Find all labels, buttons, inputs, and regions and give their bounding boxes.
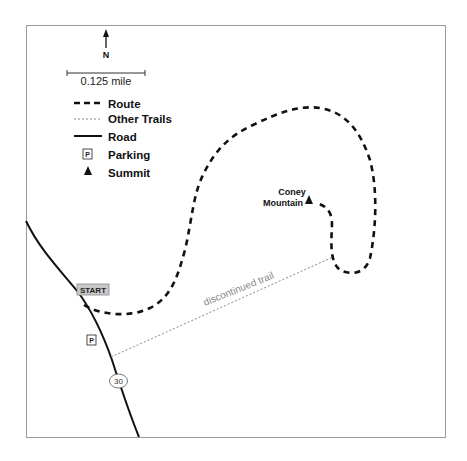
legend-route-label: Route xyxy=(108,98,141,110)
map-frame xyxy=(27,26,446,438)
legend-summit-label: Summit xyxy=(108,167,150,179)
trail-map: N 0.125 mile Route Other Trails Road P P… xyxy=(0,0,467,461)
legend-other-trails-label: Other Trails xyxy=(108,113,172,125)
summit-name-line2: Mountain xyxy=(263,198,303,208)
legend-parking-label: Parking xyxy=(108,149,150,161)
north-label: N xyxy=(103,50,110,60)
legend-parking-icon: P xyxy=(83,149,92,159)
scale-label: 0.125 mile xyxy=(81,75,132,87)
road-number-label: 30 xyxy=(114,377,123,386)
svg-text:P: P xyxy=(85,151,90,158)
parking-icon: P xyxy=(87,335,96,345)
road-shield-30: 30 xyxy=(110,374,128,388)
legend-road-label: Road xyxy=(108,131,137,143)
summit-name-line1: Coney xyxy=(278,187,306,197)
start-label: START xyxy=(80,286,106,295)
start-marker: START xyxy=(77,284,109,295)
svg-text:P: P xyxy=(89,337,94,344)
